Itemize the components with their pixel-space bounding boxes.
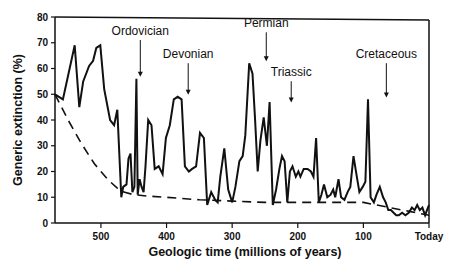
x-tick-label: 300 xyxy=(224,231,241,242)
arrowhead-icon xyxy=(264,56,269,61)
x-axis-ticks: 500400300200100Today xyxy=(93,223,444,242)
x-tick-label: 500 xyxy=(93,231,110,242)
event-label-triassic: Triassic xyxy=(271,65,312,79)
event-label-ordovician: Ordovician xyxy=(112,24,169,38)
y-tick-label: 0 xyxy=(42,218,48,229)
arrowhead-icon xyxy=(138,72,143,77)
x-axis-title: Geologic time (millions of years) xyxy=(148,245,341,259)
arrowhead-icon xyxy=(384,92,389,97)
top-border xyxy=(55,17,429,20)
y-axis-title: Generic extinction (%) xyxy=(11,54,25,186)
event-label-cretaceous: Cretaceous xyxy=(356,47,417,61)
y-axis-ticks: 01020304050607080 xyxy=(37,12,55,229)
y-tick-label: 30 xyxy=(37,140,49,151)
y-tick-label: 10 xyxy=(37,192,49,203)
x-tick-label: 100 xyxy=(355,231,372,242)
x-tick-label: 400 xyxy=(158,231,175,242)
y-tick-label: 60 xyxy=(37,63,49,74)
extinction-event-annotations: OrdovicianDevonianPermianTriassicCretace… xyxy=(112,16,417,102)
x-tick-label: 200 xyxy=(289,231,306,242)
generic-extinction-line xyxy=(55,45,429,215)
y-tick-label: 80 xyxy=(37,12,49,23)
event-label-permian: Permian xyxy=(244,16,289,30)
extinction-chart: 01020304050607080 500400300200100Today O… xyxy=(0,0,456,273)
arrowhead-icon xyxy=(289,98,294,103)
y-tick-label: 40 xyxy=(37,115,49,126)
y-tick-label: 50 xyxy=(37,89,49,100)
y-tick-label: 20 xyxy=(37,166,49,177)
arrowhead-icon xyxy=(186,90,191,95)
data-series xyxy=(55,45,429,215)
event-label-devonian: Devonian xyxy=(163,47,214,61)
y-tick-label: 70 xyxy=(37,37,49,48)
x-tick-label: Today xyxy=(415,231,444,242)
